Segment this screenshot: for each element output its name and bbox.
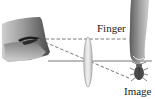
lens-icon (84, 37, 92, 87)
finger-label: Finger (97, 23, 126, 34)
image-label: Image (124, 86, 151, 97)
finger-icon (130, 0, 150, 63)
lens-diagram: Finger Image (0, 0, 155, 99)
eye-icon (2, 17, 50, 62)
bug-icon (130, 62, 148, 81)
